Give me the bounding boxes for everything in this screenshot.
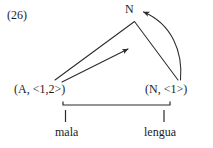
example-number: (26) <box>7 9 27 21</box>
left-word-mala: mala <box>55 126 78 138</box>
curved-agreement-arrow <box>144 12 181 80</box>
triangle-left-leg <box>55 22 135 81</box>
right-word-lengua: lengua <box>144 126 176 138</box>
inner-movement-arrow <box>62 49 128 82</box>
diagram-graphics <box>0 0 213 148</box>
left-node-adjective: (A, <1,2>) <box>14 83 65 95</box>
right-node-noun: (N, <1>) <box>145 83 187 95</box>
triangle-right-leg <box>135 22 179 81</box>
top-node-n: N <box>125 3 134 15</box>
figure-canvas: (26) N (A, <1,2>) (N, <1>) mala lengua <box>0 0 213 148</box>
spanning-bracket <box>63 102 170 106</box>
